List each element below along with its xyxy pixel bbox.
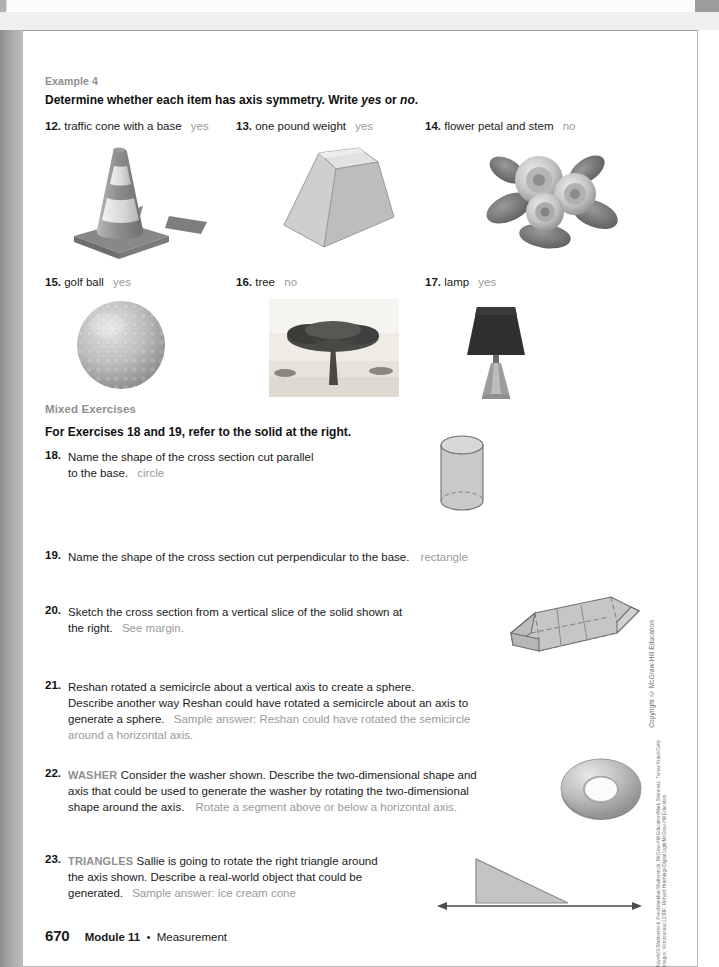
page-footer: 670 Module 11 • Measurement: [45, 927, 227, 944]
viewer-corner-top-left: [0, 0, 6, 12]
exercise-21-body: Reshan rotated a semicircle about a vert…: [68, 679, 538, 743]
exercise-19-number: 19.: [45, 549, 61, 561]
lamp-figure: [441, 293, 551, 405]
exercise-23-body: TRIANGLES Sallie is going to rotate the …: [68, 853, 448, 901]
exercise-22-line1: Consider the washer shown. Describe the …: [121, 769, 477, 781]
exercise-21-number: 21.: [45, 679, 61, 691]
exercise-16-text: tree: [255, 276, 275, 288]
exercise-12-number: 12.: [45, 120, 61, 132]
exercise-18-body: Name the shape of the cross section cut …: [68, 449, 398, 481]
exercise-22-answer: Rotate a segment above or below a horizo…: [196, 801, 457, 813]
viewer-top-strip-inner: [6, 0, 705, 11]
exercise-12-text: traffic cone with a base: [64, 120, 181, 132]
exercise-13-text: one pound weight: [255, 120, 346, 132]
mixed-exercises-direction: For Exercises 18 and 19, refer to the so…: [45, 425, 351, 439]
exercise-19-answer: rectangle: [421, 551, 468, 563]
exercise-23-answer: Sample answer: ice cream cone: [132, 887, 296, 899]
exercise-15-text: golf ball: [64, 276, 104, 288]
exercise-19-line1: Name the shape of the cross section cut …: [68, 551, 409, 563]
exercise-17-answer: yes: [478, 276, 496, 288]
exercise-22-number: 22.: [45, 767, 61, 779]
direction-yes: yes: [361, 93, 381, 107]
exercise-19-body: Name the shape of the cross section cut …: [68, 549, 628, 565]
exercise-20-line2: the right.: [68, 622, 113, 634]
page-content: Example 4 Determine whether each item ha…: [23, 31, 699, 967]
exercise-15-answer: yes: [113, 276, 131, 288]
direction-end: .: [415, 93, 418, 107]
exercise-14-answer: no: [563, 120, 576, 132]
exercise-14: 14. flower petal and stem no: [425, 119, 576, 134]
direction-prefix: Determine whether each item has axis sym…: [45, 93, 361, 107]
exercise-23-line2: the axis shown. Describe a real-world ob…: [68, 871, 362, 883]
washer-figure: [551, 749, 651, 827]
exercise-21-answer: Sample answer: Reshan could have rotated…: [174, 713, 471, 725]
exercise-18-line1: Name the shape of the cross section cut …: [68, 451, 313, 463]
exercise-18-line2: to the base.: [68, 467, 128, 479]
exercise-13: 13. one pound weight yes: [236, 119, 373, 134]
exercise-16-number: 16.: [236, 276, 252, 288]
exercise-20-line1: Sketch the cross section from a vertical…: [68, 606, 402, 618]
exercise-18-number: 18.: [45, 449, 61, 461]
exercise-21-line3: generate a sphere.: [68, 713, 165, 725]
hexagonal-prism-figure: [491, 589, 651, 669]
footer-separator: •: [146, 931, 150, 943]
exercise-15: 15. golf ball yes: [45, 275, 131, 290]
exercise-23-line3: generated.: [68, 887, 123, 899]
exercise-21-answer-line2: around a horizontal axis.: [68, 729, 193, 741]
exercise-14-text: flower petal and stem: [444, 120, 553, 132]
one-pound-weight-figure: [276, 139, 401, 257]
exercise-23-line1: Sallie is going to rotate the right tria…: [137, 855, 378, 867]
cylinder-figure: [427, 431, 497, 523]
mixed-exercises-label: Mixed Exercises: [45, 403, 136, 415]
example-label: Example 4: [45, 75, 98, 87]
viewer-corner-top-right: [695, 0, 719, 12]
exercise-20-body: Sketch the cross section from a vertical…: [68, 604, 468, 636]
direction-no: no: [400, 93, 415, 107]
module-topic: Measurement: [157, 931, 227, 943]
exercise-18-answer: circle: [137, 467, 164, 479]
exercise-17-text: lamp: [444, 276, 469, 288]
exercise-22-category: WASHER: [68, 769, 117, 781]
exercise-16-answer: no: [284, 276, 297, 288]
viewer-right-gap: [700, 12, 719, 30]
photo-credits: Kayeh79/Shutterstock; Penchilankhar/Shut…: [656, 728, 719, 967]
exercise-22-line3: shape around the axis.: [68, 801, 184, 813]
page-number: 670: [45, 927, 69, 944]
tree-figure: [269, 299, 399, 397]
exercise-15-number: 15.: [45, 276, 61, 288]
flower-figure: [483, 136, 623, 261]
exercise-13-number: 13.: [236, 120, 252, 132]
exercise-20-answer: See margin.: [122, 622, 184, 634]
exercise-16: 16. tree no: [236, 275, 297, 290]
exercise-14-number: 14.: [425, 120, 441, 132]
exercise-23-number: 23.: [45, 853, 61, 865]
exercise-12: 12. traffic cone with a base yes: [45, 119, 209, 134]
viewer-left-shadow: [0, 30, 22, 967]
exercise-20-number: 20.: [45, 604, 61, 616]
copyright-notice: Copyright © McGraw-Hill Education: [648, 620, 655, 728]
exercise-23-category: TRIANGLES: [68, 855, 133, 867]
golf-ball-figure: [67, 293, 177, 399]
right-triangle-axis-figure: [433, 849, 648, 919]
exercise-21-line1: Reshan rotated a semicircle about a vert…: [68, 681, 414, 693]
exercise-13-answer: yes: [355, 120, 373, 132]
exercise-17-number: 17.: [425, 276, 441, 288]
textbook-page: Example 4 Determine whether each item ha…: [22, 30, 698, 967]
traffic-cone-figure: [61, 136, 226, 276]
exercise-21-line2: Describe another way Reshan could have r…: [68, 697, 468, 709]
exercise-22-line2: axis that could be used to generate the …: [68, 785, 469, 797]
viewer-gap-band: [0, 12, 719, 30]
exercise-22-body: WASHER Consider the washer shown. Descri…: [68, 767, 548, 815]
module-name: Module 11: [85, 931, 141, 943]
direction-or: or: [381, 93, 400, 107]
exercise-17: 17. lamp yes: [425, 275, 496, 290]
example-direction: Determine whether each item has axis sym…: [45, 93, 418, 107]
exercise-12-answer: yes: [191, 120, 209, 132]
